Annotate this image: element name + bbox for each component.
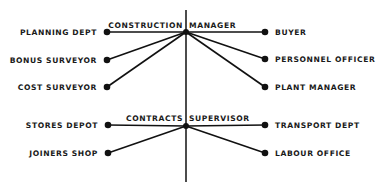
hub-title-right: SUPERVISOR [189,114,250,123]
node-joiners-shop: JOINERS SHOP [28,126,186,158]
connector-line [186,126,265,153]
node-label: LABOUR OFFICE [275,149,351,158]
connector-line [108,126,186,153]
hub-title-left: CONTRACTS [126,114,183,123]
node-label: TRANSPORT DEPT [275,121,360,130]
node-dot-icon [262,29,269,36]
hub-title-right: MANAGER [189,21,236,30]
node-dot-icon [104,29,111,36]
hub-dot-icon [183,123,189,129]
node-label: STORES DEPOT [26,121,98,130]
node-dot-icon [262,122,269,129]
node-label: COST SURVEYOR [18,83,97,92]
organisation-diagram: CONSTRUCTIONMANAGERPLANNING DEPTBONUS SU… [0,0,379,192]
node-label: PLANNING DEPT [20,28,97,37]
hub-dot-icon [183,29,189,35]
connector-line [107,32,186,60]
node-label: BUYER [275,28,307,37]
connector-line [107,32,186,87]
hub-contracts-supervisor: CONTRACTSSUPERVISORSTORES DEPOTJOINERS S… [26,114,360,158]
node-dot-icon [105,122,112,129]
node-label: BONUS SURVEYOR [10,56,97,65]
connector-line [186,32,265,59]
node-dot-icon [262,150,269,157]
node-label: JOINERS SHOP [28,149,98,158]
node-dot-icon [262,84,269,91]
hub-title-left: CONSTRUCTION [108,21,183,30]
node-dot-icon [262,56,269,63]
node-dot-icon [105,150,112,157]
connector-line [186,125,265,126]
node-dot-icon [104,57,111,64]
connector-line [108,125,186,126]
hub-construction-manager: CONSTRUCTIONMANAGERPLANNING DEPTBONUS SU… [10,21,376,92]
node-dot-icon [104,84,111,91]
node-bonus-surveyor: BONUS SURVEYOR [10,32,186,65]
node-label: PERSONNEL OFFICER [275,55,375,64]
connector-line [186,32,265,87]
node-label: PLANT MANAGER [275,83,356,92]
node-labour-office: LABOUR OFFICE [186,126,351,158]
